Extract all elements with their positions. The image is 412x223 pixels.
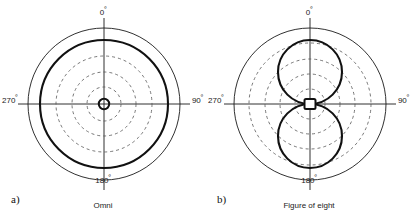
axis-label-180: 180º <box>301 176 317 185</box>
center-marker-icon <box>305 99 316 109</box>
degree-symbol-icon: º <box>407 94 409 100</box>
polar-plot-figure-of-eight <box>206 0 412 200</box>
axis-label-180: 180º <box>95 176 111 185</box>
polar-plot-omni <box>0 0 206 200</box>
panel-caption: Figure of eight <box>283 201 334 210</box>
panel-figure-of-eight: 0º 90º 180º 270º Figure of eight b) <box>206 0 412 223</box>
degree-symbol-icon: º <box>201 94 203 100</box>
degree-symbol-icon: º <box>109 174 111 180</box>
panel-omni: 0º 90º 180º 270º Omni a) <box>0 0 206 223</box>
degree-symbol-icon: º <box>104 6 106 12</box>
axis-label-0: 0º <box>100 8 107 17</box>
axis-label-270: 270º <box>2 96 18 105</box>
degree-symbol-icon: º <box>221 94 223 100</box>
axis-label-90: 90º <box>192 96 203 105</box>
panel-caption: Omni <box>93 201 112 210</box>
degree-symbol-icon: º <box>310 6 312 12</box>
axis-label-0: 0º <box>306 8 313 17</box>
degree-symbol-icon: º <box>15 94 17 100</box>
axis-label-270: 270º <box>208 96 224 105</box>
figure-polar-patterns: 0º 90º 180º 270º Omni a) 0º 90º 180º <box>0 0 412 223</box>
degree-symbol-icon: º <box>315 174 317 180</box>
panel-letter: b) <box>217 193 226 205</box>
axis-label-90: 90º <box>398 96 409 105</box>
panel-letter: a) <box>11 193 20 205</box>
